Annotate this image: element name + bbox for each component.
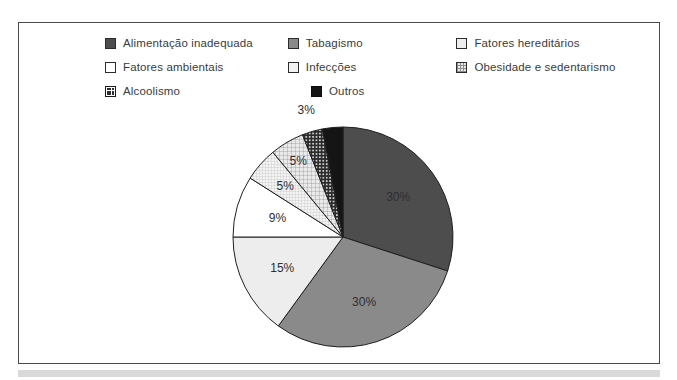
pie-slice-label: 30% [352, 295, 376, 309]
pie-slice-label: 3% [298, 103, 315, 117]
pie-chart-svg [19, 23, 661, 365]
pie-slices [233, 127, 453, 347]
pie-chart-area: 30%30%15%9%5%5%3% [19, 23, 661, 365]
pie-slice-label: 9% [269, 211, 286, 225]
page-bottom-band [18, 370, 660, 377]
chart-figure-frame: Alimentação inadequadaTabagismoFatores h… [18, 22, 660, 364]
pie-slice-label: 5% [290, 154, 307, 168]
pie-slice-label: 5% [277, 179, 294, 193]
pie-slice-label: 30% [386, 190, 410, 204]
pie-slice-label: 15% [270, 261, 294, 275]
